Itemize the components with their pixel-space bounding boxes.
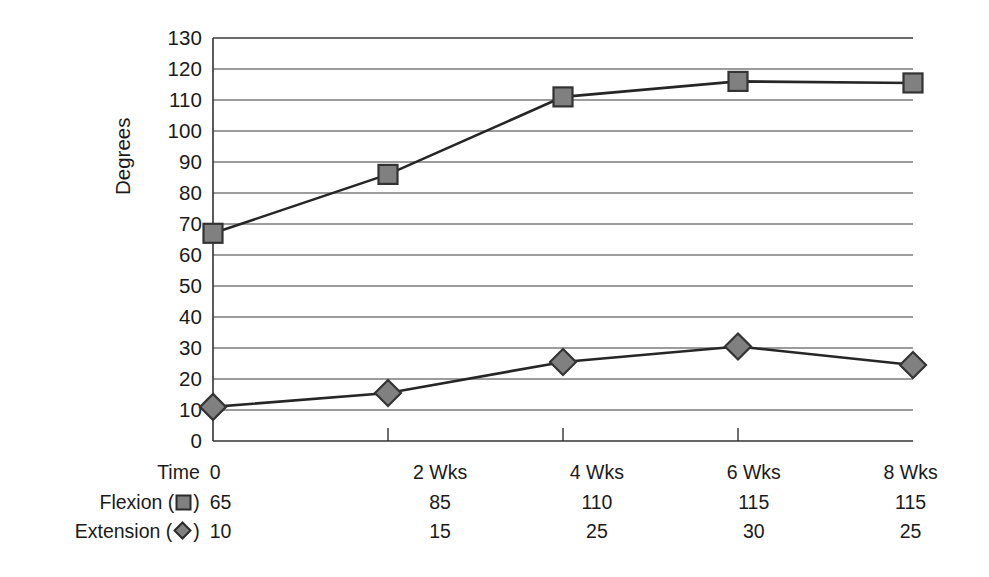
table-row-label-paren: )	[193, 491, 200, 513]
table-cell: 85	[362, 488, 519, 518]
table-cell: 65	[200, 488, 362, 518]
table-cell: 30	[675, 517, 832, 547]
table-cell: 110	[519, 488, 676, 518]
square-marker-icon	[379, 165, 398, 184]
table-row-label-paren: )	[193, 520, 200, 542]
plot-area	[0, 0, 989, 470]
square-marker-icon	[175, 494, 192, 511]
square-marker-icon	[554, 87, 573, 106]
table-row-label: Time	[0, 458, 200, 488]
series-extension	[200, 333, 926, 419]
table-row: Time02 Wks4 Wks6 Wks8 Wks	[0, 458, 989, 488]
square-marker-icon	[729, 72, 748, 91]
diamond-marker-icon	[173, 521, 192, 540]
table-cell: 25	[519, 517, 676, 547]
diamond-marker-icon	[200, 394, 226, 420]
diamond-marker-icon	[900, 352, 926, 378]
table-row-label-text: Flexion (	[99, 491, 174, 513]
table-cell: 0	[200, 458, 362, 488]
table-cell: 115	[832, 488, 989, 518]
square-marker-icon	[904, 73, 923, 92]
diamond-marker-icon	[550, 349, 576, 375]
table-cell: 2 Wks	[362, 458, 519, 488]
diamond-marker-icon	[375, 380, 401, 406]
table-cell: 10	[200, 517, 362, 547]
data-series-layer	[200, 72, 926, 420]
square-marker-icon	[204, 224, 223, 243]
table-row: Extension ()1015253025	[0, 517, 989, 547]
series-flexion	[204, 72, 923, 243]
table-cell: 15	[362, 517, 519, 547]
table-row-label: Flexion ()	[0, 488, 200, 518]
table-row-label-text: Extension (	[75, 520, 173, 542]
chart-figure: Degrees 1301201101009080706050403020100 …	[0, 0, 989, 577]
table-cell: 6 Wks	[675, 458, 832, 488]
table-row-label: Extension ()	[0, 517, 200, 547]
table-cell: 115	[675, 488, 832, 518]
diamond-marker-icon	[725, 333, 751, 359]
table-row: Flexion ()6585110115115	[0, 488, 989, 518]
data-table: Time02 Wks4 Wks6 Wks8 WksFlexion ()65851…	[0, 458, 989, 547]
table-cell: 25	[832, 517, 989, 547]
x-axis-ticks	[388, 428, 738, 441]
table-cell: 8 Wks	[832, 458, 989, 488]
table-cell: 4 Wks	[519, 458, 676, 488]
